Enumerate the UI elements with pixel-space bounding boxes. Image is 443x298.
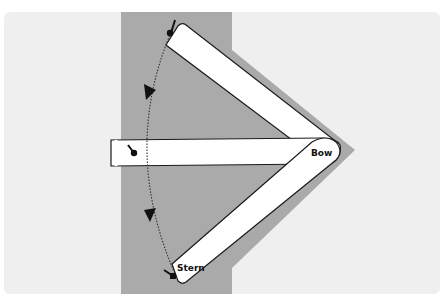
boat-pivot-diagram: Bow Stern	[0, 0, 443, 298]
bow-label: Bow	[311, 148, 332, 158]
stern-label: Stern	[177, 263, 205, 273]
